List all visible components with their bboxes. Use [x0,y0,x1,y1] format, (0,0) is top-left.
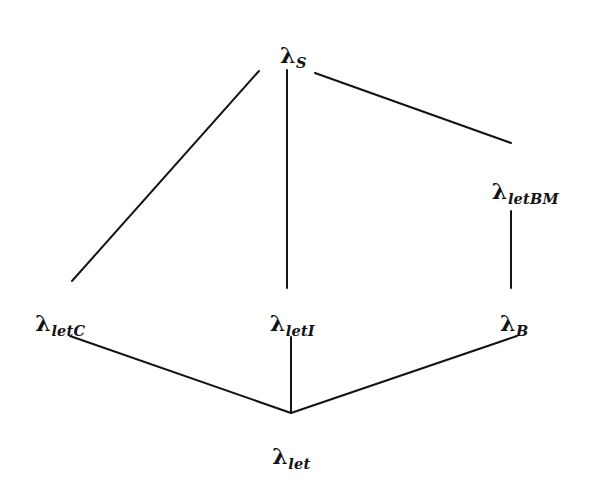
node-lambda-letbm: λletBM [492,180,558,203]
subscript-label: S [296,54,307,71]
edge-layer [0,0,595,480]
subscript-label: let [288,455,310,472]
edge-let-to-lambda-b [291,336,517,413]
lambda-glyph: λ [270,310,286,336]
edge-lambda-s-to-letbm [315,73,511,143]
node-lambda-s: λS [280,44,306,67]
lambda-glyph: λ [35,310,51,336]
edges-group [70,70,517,413]
edge-letc-to-lambda-s [72,71,259,281]
lambda-glyph: λ [492,178,508,204]
lambda-glyph: λ [500,310,516,336]
node-lambda-leti: λletI [270,312,315,335]
subscript-label: letC [51,322,85,339]
node-lambda-let: λlet [272,445,310,468]
edge-let-to-letc [70,336,291,413]
lattice-diagram: λS λletBM λletC λletI λB λlet [0,0,595,480]
node-lambda-b: λB [500,312,528,335]
lambda-glyph: λ [280,42,296,68]
node-lambda-letc: λletC [35,312,84,335]
subscript-label: letBM [508,190,559,207]
lambda-glyph: λ [272,443,288,469]
subscript-label: letI [286,322,315,339]
subscript-label: B [516,322,528,339]
